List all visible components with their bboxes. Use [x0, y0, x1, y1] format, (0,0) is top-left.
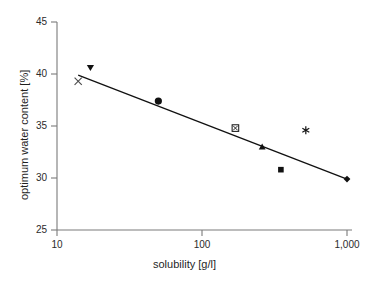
trend-line — [78, 75, 347, 179]
chart-figure: 4540353025101001,000 solubility [g/l] op… — [0, 0, 369, 287]
data-point-square-x — [232, 125, 239, 132]
y-axis-ticks — [51, 22, 57, 230]
x-tick-label: 10 — [32, 240, 82, 250]
data-point-asterisk — [302, 126, 309, 134]
trend-line-segment — [78, 75, 347, 179]
data-point-diamond — [344, 176, 351, 183]
data-point-circle — [155, 97, 162, 104]
x-tick-label: 100 — [177, 240, 227, 250]
data-point-square — [278, 167, 284, 173]
data-point-triangle-down — [87, 65, 94, 71]
data-point-x — [75, 78, 82, 85]
y-tick-label: 45 — [22, 17, 47, 27]
x-tick-label: 1,000 — [322, 240, 369, 250]
y-tick-label: 25 — [22, 225, 47, 235]
y-axis-title: optimum water content [%] — [18, 70, 30, 200]
x-axis-title: solubility [g/l] — [0, 258, 369, 270]
axes-group — [57, 22, 352, 230]
x-axis-ticks — [57, 230, 347, 236]
